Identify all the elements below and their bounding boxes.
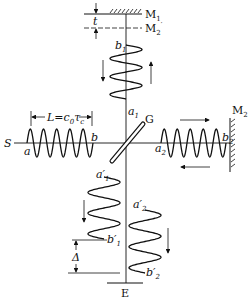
m2-label: M2 — [232, 104, 248, 119]
label-b: b — [91, 131, 98, 144]
m1-label: M1 — [145, 8, 161, 23]
label-a2-prime: a′2 — [133, 198, 147, 213]
label-a2: a2 — [155, 142, 167, 157]
m2-image-label: M2′ — [145, 21, 163, 37]
source-label: S — [4, 137, 12, 150]
label-b1: b1 — [115, 39, 127, 54]
output2-wave-train — [129, 210, 161, 273]
label-a1-prime: a′1 — [96, 168, 110, 183]
g-label: G — [145, 113, 154, 126]
label-b2: b2 — [222, 131, 234, 146]
delta-label: Δ — [71, 251, 80, 264]
mirror-m1 — [84, 9, 142, 14]
michelson-diagram: M1 M2′ t M2 G S — [0, 0, 252, 307]
detector-label: E — [121, 287, 129, 300]
label-b1-prime: b′1 — [107, 233, 121, 248]
thickness-label: t — [93, 15, 98, 28]
beamsplitter-g — [112, 124, 143, 161]
label-b2-prime: b′2 — [146, 266, 161, 281]
output1-wave-train — [88, 177, 120, 239]
coherence-length-label: L=c0τc — [46, 111, 84, 126]
label-a1: a1 — [128, 105, 139, 120]
label-a: a — [24, 145, 31, 158]
